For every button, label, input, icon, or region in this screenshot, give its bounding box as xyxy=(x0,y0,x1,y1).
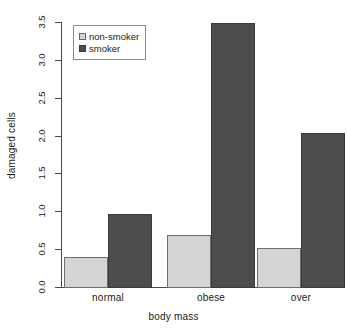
y-tick-label-4-text: 2.0 xyxy=(37,127,47,145)
y-tick-label-3-text: 1.5 xyxy=(37,164,47,182)
y-tick-mark-3 xyxy=(55,173,61,174)
legend-swatch-icon-non-smoker xyxy=(79,33,86,40)
y-tick-label-5-text: 2.5 xyxy=(37,89,47,107)
legend-label-non-smoker: non-smoker xyxy=(89,31,139,42)
bar-normal-non-smoker xyxy=(64,257,108,288)
y-tick-label-6-text: 3.0 xyxy=(37,51,47,69)
legend: non-smoker smoker xyxy=(73,25,146,60)
x-tick-label-over: over xyxy=(291,292,311,303)
y-tick-mark-7 xyxy=(55,22,61,23)
x-axis-title: body mass xyxy=(0,311,347,322)
bar-normal-smoker xyxy=(108,214,152,288)
legend-label-smoker: smoker xyxy=(89,43,120,54)
y-tick-label-7: 3.5 xyxy=(33,17,51,27)
y-tick-label-6: 3.0 xyxy=(33,55,51,65)
x-tick-label-obese: obese xyxy=(197,292,225,303)
y-tick-label-0-text: 0.0 xyxy=(37,278,47,296)
bar-obese-non-smoker xyxy=(167,235,211,288)
y-tick-label-1: 0.5 xyxy=(33,244,51,254)
y-tick-label-0: 0.0 xyxy=(33,282,51,292)
y-tick-label-1-text: 0.5 xyxy=(37,240,47,258)
y-tick-mark-5 xyxy=(55,98,61,99)
y-tick-mark-1 xyxy=(55,249,61,250)
y-tick-label-3: 1.5 xyxy=(33,168,51,178)
bar-over-smoker xyxy=(301,133,345,288)
bar-over-non-smoker xyxy=(257,248,301,288)
bar-obese-smoker xyxy=(211,23,255,288)
y-axis-line xyxy=(61,22,62,288)
y-tick-label-2-text: 1.0 xyxy=(37,202,47,220)
x-tick-label-normal: normal xyxy=(92,292,124,303)
y-tick-label-7-text: 3.5 xyxy=(37,13,47,31)
y-axis-title-text: damaged cells xyxy=(7,111,18,178)
y-tick-mark-4 xyxy=(55,136,61,137)
legend-swatch-icon-smoker xyxy=(79,45,86,52)
legend-item-smoker: smoker xyxy=(79,42,139,54)
y-tick-mark-2 xyxy=(55,211,61,212)
y-axis-title: damaged cells xyxy=(4,0,20,290)
y-tick-label-5: 2.5 xyxy=(33,93,51,103)
y-tick-label-4: 2.0 xyxy=(33,131,51,141)
y-tick-label-2: 1.0 xyxy=(33,206,51,216)
bar-chart: damaged cells 0.0 0.5 1.0 1.5 2.0 2.5 3.… xyxy=(0,0,347,332)
y-tick-mark-6 xyxy=(55,60,61,61)
legend-item-non-smoker: non-smoker xyxy=(79,30,139,42)
